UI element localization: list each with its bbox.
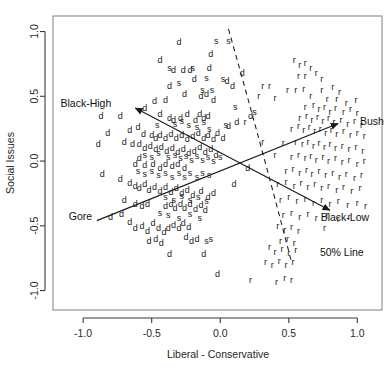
data-point-s: s [188,168,193,178]
data-point-r: r [304,153,307,163]
data-point-r: r [304,58,307,68]
data-point-d: d [182,203,187,213]
data-point-d: d [211,188,216,198]
data-point-d: d [194,234,199,244]
data-point-d: d [171,65,176,75]
data-point-r: r [320,183,323,193]
data-point-r: r [297,226,300,236]
data-point-s: s [155,120,160,130]
data-point-s: s [189,155,194,165]
data-point-d: d [183,232,188,242]
data-point-d: d [118,111,123,121]
data-point-r: r [341,157,344,167]
data-point-r: r [328,139,331,149]
data-point-d: d [127,125,132,135]
data-point-r: r [301,139,304,149]
data-point-s: s [149,166,154,176]
data-point-r: r [285,260,288,270]
y-tick-label: -0.5 [28,217,40,235]
data-point-s: s [149,152,154,162]
data-point-r: r [320,74,323,84]
data-point-r: r [304,71,307,81]
data-point-s: s [210,85,215,95]
data-point-d: d [96,139,101,149]
annotation-label-50-line: 50% Line [320,246,364,258]
data-point-r: r [319,124,322,134]
data-point-d: d [156,223,161,233]
data-point-s: s [177,168,182,178]
data-point-d: d [205,111,210,121]
data-point-r: r [315,68,318,78]
data-point-r: r [328,199,331,209]
data-point-d: d [185,109,190,119]
data-point-d: d [153,234,158,244]
data-point-r: r [327,156,330,166]
data-point-r: r [297,121,300,131]
data-point-r: r [312,100,315,110]
data-point-r: r [349,104,352,114]
data-point-r: r [323,223,326,233]
data-point-r: r [342,182,345,192]
data-point-r: r [297,71,300,81]
data-point-d: d [220,133,225,143]
data-point-r: r [306,182,309,192]
data-point-s: s [184,151,189,161]
data-point-r: r [290,222,293,232]
data-point-d: d [234,117,239,127]
data-point-s: s [166,210,171,220]
data-point-r: r [291,257,294,267]
data-point-s: s [214,36,219,46]
data-point-r: r [334,103,337,113]
data-point-r: r [331,168,334,178]
data-point-r: r [339,115,342,125]
data-point-s: s [197,213,202,223]
data-point-d: d [159,238,164,248]
data-point-r: r [302,125,305,135]
data-point-s: s [180,116,185,126]
data-point-s: s [156,170,161,180]
data-point-r: r [353,173,356,183]
data-point-d: d [146,185,151,195]
data-point-r: r [249,275,252,285]
data-point-s: s [226,36,231,46]
data-point-d: d [135,122,140,132]
data-point-d: d [167,249,172,259]
data-point-r: r [346,119,349,129]
data-point-d: d [140,221,145,231]
data-point-s: s [204,73,209,83]
data-point-r: r [304,194,307,204]
data-point-d: d [148,141,153,151]
data-point-r: r [274,93,277,103]
data-point-s: s [170,172,175,182]
data-point-d: d [231,179,236,189]
data-point-d: d [201,249,206,259]
data-point-r: r [300,178,303,188]
data-point-d: d [100,169,105,179]
data-point-d: d [157,109,162,119]
data-point-d: d [130,139,135,149]
data-point-r: r [331,82,334,92]
data-point-d: d [182,89,187,99]
data-point-r: r [312,141,315,151]
data-point-r: r [345,169,348,179]
data-point-r: r [348,144,351,154]
data-point-r: r [334,143,337,153]
reference-line-gore-bush-axis [97,123,338,220]
data-point-s: s [191,63,196,73]
data-point-r: r [350,186,353,196]
data-point-r: r [285,166,288,176]
data-point-d: d [186,222,191,232]
plot-border [53,16,382,310]
data-point-d: d [151,218,156,228]
data-point-r: r [338,87,341,97]
data-point-r: r [356,108,359,118]
annotation-label-bush: Bush [360,115,384,127]
data-point-d: d [215,269,220,279]
data-point-r: r [335,185,338,195]
data-point-s: s [182,172,187,182]
data-point-d: d [98,111,103,121]
data-point-r: r [268,242,271,252]
data-point-d: d [133,223,138,233]
data-point-s: s [200,168,205,178]
data-point-r: r [311,115,314,125]
